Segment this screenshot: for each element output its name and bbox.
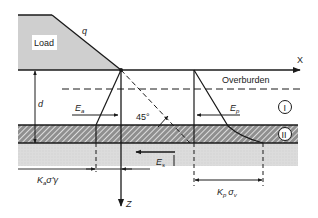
surcharge-q-label: q (82, 26, 87, 36)
overburden-label: Overburden (222, 75, 270, 85)
earth-pressure-diagram: Load q X Overburden d Z Ea 45° Es Ep I I… (0, 0, 318, 218)
layer-one-label: I (284, 103, 287, 113)
active-force-label: Ea (75, 103, 85, 114)
z-axis-label: Z (125, 199, 132, 209)
depth-label: d (38, 99, 44, 109)
load-label: Load (34, 38, 54, 48)
active-wedge-line (96, 70, 121, 125)
passive-force-label: Ep (230, 103, 240, 114)
layer-two-label: II (282, 130, 287, 140)
active-dimension-label: Kaσ'γ (37, 175, 59, 186)
passive-dimension-label: Kpσv (217, 187, 238, 198)
x-axis-label: X (297, 55, 303, 65)
angle-label: 45° (136, 112, 150, 122)
hatched-layer-two (18, 125, 298, 143)
